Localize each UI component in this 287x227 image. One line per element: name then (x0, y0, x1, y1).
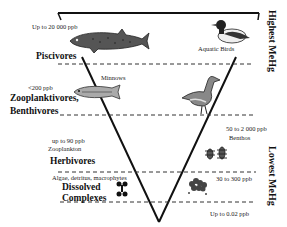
molecule-icon (116, 181, 128, 197)
benthivores-label: Benthivores (10, 107, 58, 117)
trout-fish-icon (68, 28, 150, 54)
benthos-insect-icon (203, 145, 231, 163)
duck-icon (210, 16, 252, 46)
dissolved-label: Dissolved (62, 183, 101, 193)
zooplanktivores-concentration: <200 ppb (28, 85, 53, 92)
algae-icon (186, 176, 210, 196)
wading-bird-icon (180, 72, 224, 116)
complexes-label: Complexes (62, 194, 106, 204)
benthos-label: Benthos (229, 135, 250, 142)
algae-concentration: 30 to 300 ppb (216, 176, 252, 183)
lowest-mehg-label: Lowest MeHg (267, 146, 277, 206)
food-web-diagram: Up to 20 000 ppb Piscivores Aquatic Bird… (0, 0, 287, 227)
bottom-concentration: Up to 0.02 ppb (210, 211, 249, 218)
minnow-fish-icon (72, 83, 128, 101)
benthos-concentration: 50 to 2 000 ppb (226, 126, 267, 133)
highest-mehg-label: Highest MeHg (267, 10, 277, 72)
zooplanktivores-label: Zooplanktivores, (10, 94, 79, 104)
aquatic-birds-label: Aquatic Birds (198, 46, 234, 53)
herbivores-label: Herbivores (50, 157, 95, 167)
herbivores-concentration: up to 90 ppb (52, 138, 85, 145)
minnows-label: Minnows (101, 75, 126, 82)
zooplankton-label: Zooplankton (48, 146, 81, 153)
